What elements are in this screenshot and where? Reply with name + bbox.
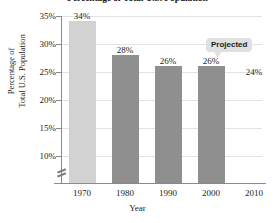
x-tick-label-2010: 2010: [232, 188, 275, 198]
bar-value-1990: 26%: [148, 56, 188, 66]
x-axis-label: Year: [0, 203, 275, 213]
bar-chart: Percentage of Total U.S. Population Perc…: [0, 0, 275, 223]
y-tick-label-15: 15%: [4, 123, 56, 133]
y-tick-30: [56, 44, 62, 45]
y-tick-label-30: 30%: [4, 39, 56, 49]
x-tick-label-1980: 1980: [103, 188, 147, 198]
y-tick-10: [56, 156, 62, 157]
y-tick-label-20: 20%: [4, 95, 56, 105]
projected-callout: Projected: [206, 38, 252, 52]
bar-value-1980: 28%: [105, 45, 145, 55]
y-tick-25: [56, 72, 62, 73]
y-tick-label-35: 35%: [4, 11, 56, 21]
x-axis-line: [54, 183, 266, 184]
bar-1990: [155, 66, 182, 183]
x-tick-label-2000: 2000: [189, 188, 233, 198]
bar-value-1970: 34%: [62, 11, 102, 21]
bar-2000: [198, 66, 225, 183]
bar-1980: [112, 55, 139, 183]
x-tick-label-1990: 1990: [146, 188, 190, 198]
bar-1970: [69, 21, 96, 183]
y-tick-15: [56, 128, 62, 129]
y-tick-label-10: 10%: [4, 151, 56, 161]
y-tick-label-25: 25%: [4, 67, 56, 77]
bar-value-2010: 24%: [234, 67, 274, 77]
x-tick-label-1970: 1970: [60, 188, 104, 198]
y-tick-20: [56, 100, 62, 101]
bar-value-2000: 26%: [191, 56, 231, 66]
y-tick-labels: 35% 30% 25% 20% 15% 10%: [0, 0, 56, 223]
